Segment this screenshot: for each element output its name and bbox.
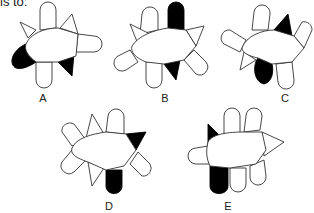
figure-b[interactable] [114,2,208,88]
option-label-b: B [161,92,168,104]
petal-bottom [146,62,162,88]
figure-a[interactable] [12,2,102,88]
figure-e[interactable] [188,108,284,194]
petal-bottom [36,62,52,88]
body [207,132,266,168]
option-label-d: D [105,200,113,212]
option-label-a: A [39,92,46,104]
petal-top-right [106,109,124,134]
petal-right [76,34,102,52]
petal-right [130,152,151,176]
figure-c[interactable] [221,5,312,89]
option-label-e: E [224,200,231,212]
petal-bottom-mid [230,168,246,192]
petal-top-shaded [168,2,184,30]
petal-bottom-shaded [106,170,122,194]
spike-right [262,132,284,156]
figure-options [0,0,314,213]
petal-top-left [224,108,240,134]
petal-bottom [276,62,294,89]
petal-top [252,5,270,30]
petal-top-right [244,108,262,132]
petal-top [40,2,56,30]
figure-d[interactable] [61,109,151,194]
option-label-c: C [281,92,289,104]
petal-bottom-shaded [210,166,228,194]
